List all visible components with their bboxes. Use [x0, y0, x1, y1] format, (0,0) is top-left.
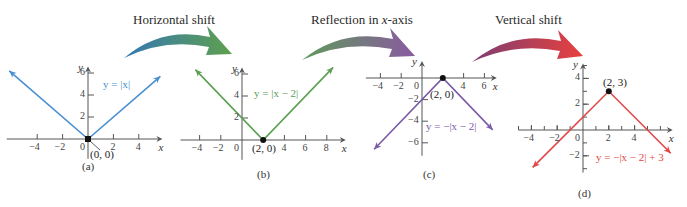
x-tick-label: 6 [303, 142, 308, 153]
x-tick-label: −2 [55, 141, 66, 152]
step-label-text: -axis [388, 12, 413, 27]
step-label-vertical-shift: Vertical shift [495, 12, 562, 28]
x-tick-label: 4 [632, 132, 637, 143]
panel-caption-c: (c) [423, 168, 435, 180]
x-tick-label: 0 [80, 141, 85, 152]
vertex-point [440, 75, 446, 81]
y-tick-label: 4 [575, 71, 580, 82]
x-tick-label: 8 [324, 142, 329, 153]
vertex-point [606, 88, 612, 94]
point-label-c: (2, 0) [430, 88, 454, 100]
y-tick-label: −6 [408, 136, 419, 147]
transformations-figure: Horizontal shift Reflection in x-axis Ve… [0, 0, 687, 207]
x-tick-label: −4 [372, 80, 383, 91]
point-label-d: (2, 3) [603, 76, 627, 88]
y-tick-label: −4 [408, 114, 419, 125]
step-label-text: Horizontal shift [133, 12, 215, 27]
x-tick-label: −2 [213, 142, 224, 153]
step-label-horizontal-shift: Horizontal shift [133, 12, 215, 28]
y-tick-label: 2 [575, 97, 580, 108]
y-tick-label: 2 [80, 110, 85, 121]
figure-canvas [0, 0, 687, 207]
x-tick-label: 4 [461, 80, 466, 91]
equation-label-c: y = −|x − 2| [426, 120, 477, 132]
graph-line-b [195, 67, 333, 140]
x-axis-label: x [342, 142, 347, 154]
equation-label-b: y = |x − 2| [254, 87, 298, 99]
y-tick-label: 4 [234, 89, 239, 100]
x-tick-label: 4 [281, 142, 286, 153]
x-axis-label: x [669, 132, 674, 144]
x-tick-label: 0 [234, 142, 239, 153]
equation-label-d: y = −|x − 2| + 3 [596, 151, 664, 163]
panel-caption-d: (d) [578, 187, 591, 199]
x-tick-label: −2 [549, 132, 560, 143]
y-tick-label: −2 [408, 93, 419, 104]
y-tick-label: 6 [80, 66, 85, 77]
transform-arrow-0 [124, 26, 232, 58]
y-axis-label: y [573, 58, 578, 70]
step-label-text: Reflection in [311, 12, 382, 27]
y-tick-label: 2 [234, 111, 239, 122]
equation-label-a: y = |x| [103, 78, 130, 90]
panel-caption-b: (b) [257, 168, 270, 180]
panel-caption-a: (a) [82, 160, 94, 172]
y-tick-label: −2 [569, 149, 580, 160]
x-tick-label: 2 [606, 132, 611, 143]
x-axis-label: x [158, 141, 163, 153]
y-tick-label: 4 [80, 88, 85, 99]
step-label-reflection: Reflection in x-axis [311, 12, 413, 28]
x-tick-label: 0 [414, 80, 419, 91]
graph-line-a [9, 71, 160, 139]
x-tick-label: 4 [136, 141, 141, 152]
x-axis-label: x [493, 80, 498, 92]
x-tick-label: 6 [481, 80, 486, 91]
x-tick-label: 0 [575, 132, 580, 143]
x-tick-label: −2 [393, 80, 404, 91]
point-label-b: (2, 0) [252, 142, 276, 154]
step-label-text: Vertical shift [495, 12, 562, 27]
y-tick-label: 6 [234, 67, 239, 78]
transform-arrow-1 [302, 28, 415, 60]
x-tick-label: −4 [523, 132, 534, 143]
y-axis-label: y [412, 55, 417, 67]
x-tick-label: −4 [29, 141, 40, 152]
transform-arrow-2 [472, 30, 583, 62]
x-tick-label: −4 [192, 142, 203, 153]
x-tick-label: 2 [110, 141, 115, 152]
